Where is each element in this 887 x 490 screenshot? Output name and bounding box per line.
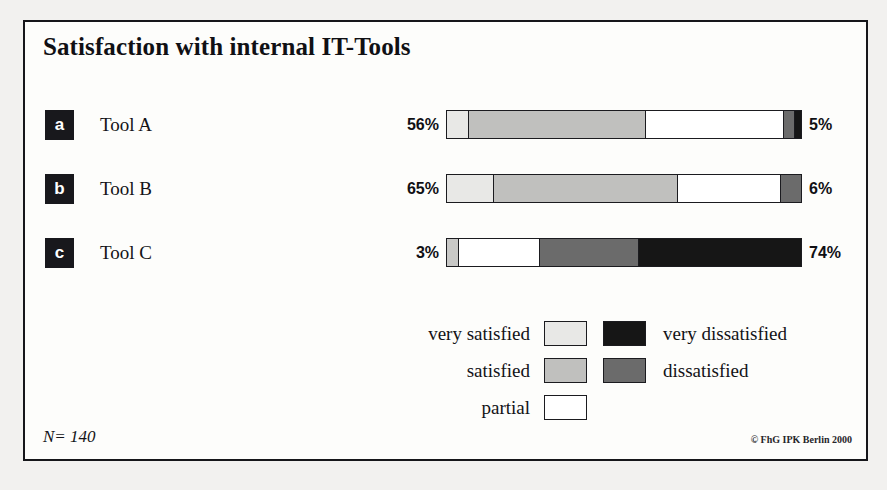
- row-key-a: a: [45, 110, 74, 140]
- segment-satisfied: [493, 175, 677, 202]
- segment-partial: [458, 239, 539, 266]
- row-percent-left-tool-a: 56%: [345, 113, 439, 137]
- row-key-c: c: [45, 238, 74, 268]
- segment-dissatisfied: [539, 239, 638, 266]
- bar-row-tool-c: c Tool C 3% 74%: [25, 236, 866, 276]
- chart-frame: Satisfaction with internal IT-Tools a To…: [23, 20, 868, 461]
- segment-satisfied: [468, 111, 645, 138]
- legend-swatch-partial: [544, 395, 587, 420]
- chart-legend: very satisfied very dissatisfied satisfi…: [380, 320, 850, 432]
- segment-dissatisfied: [780, 175, 801, 202]
- legend-row-3: partial: [380, 394, 850, 430]
- bar-row-tool-b: b Tool B 65% 6%: [25, 172, 866, 212]
- segment-very-satisfied: [447, 239, 458, 266]
- legend-row-2: satisfied dissatisfied: [380, 357, 850, 393]
- segment-very-satisfied: [447, 111, 468, 138]
- legend-swatch-satisfied: [544, 358, 587, 383]
- segment-partial: [677, 175, 780, 202]
- legend-label-very-satisfied: very satisfied: [380, 321, 530, 347]
- legend-swatch-very-satisfied: [544, 321, 587, 346]
- row-percent-left-tool-b: 65%: [345, 177, 439, 201]
- row-percent-right-tool-a: 5%: [809, 113, 832, 137]
- segment-very-satisfied: [447, 175, 493, 202]
- row-label-tool-b: Tool B: [100, 176, 152, 202]
- legend-label-dissatisfied: dissatisfied: [663, 358, 749, 384]
- legend-swatch-dissatisfied: [603, 358, 646, 383]
- legend-row-1: very satisfied very dissatisfied: [380, 320, 850, 356]
- row-key-b: b: [45, 174, 74, 204]
- legend-label-satisfied: satisfied: [380, 358, 530, 384]
- row-percent-right-tool-b: 6%: [809, 177, 832, 201]
- chart-title: Satisfaction with internal IT-Tools: [43, 33, 411, 61]
- copyright-note: © FhG IPK Berlin 2000: [751, 434, 852, 445]
- sample-size-note: N= 140: [43, 427, 96, 447]
- bar-row-tool-a: a Tool A 56% 5%: [25, 108, 866, 148]
- legend-swatch-very-dissatisfied: [603, 321, 646, 346]
- segment-partial: [645, 111, 783, 138]
- legend-label-partial: partial: [380, 395, 530, 421]
- row-label-tool-a: Tool A: [100, 112, 152, 138]
- segment-dissatisfied: [783, 111, 794, 138]
- stacked-bar-tool-a: [446, 110, 802, 139]
- stacked-bar-tool-b: [446, 174, 802, 203]
- row-percent-right-tool-c: 74%: [809, 241, 841, 265]
- row-percent-left-tool-c: 3%: [345, 241, 439, 265]
- legend-label-very-dissatisfied: very dissatisfied: [663, 321, 787, 347]
- segment-very-dissatisfied: [638, 239, 801, 266]
- row-label-tool-c: Tool C: [100, 240, 152, 266]
- stacked-bar-tool-c: [446, 238, 802, 267]
- segment-very-dissatisfied: [794, 111, 801, 138]
